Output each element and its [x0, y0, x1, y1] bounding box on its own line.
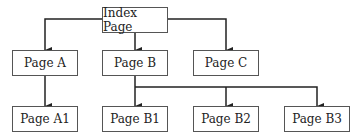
node-page-c: Page C — [193, 50, 259, 76]
node-label: Index Page — [103, 6, 167, 34]
node-page-a1: Page A1 — [12, 106, 78, 132]
node-page-b: Page B — [102, 50, 168, 76]
node-label: Page B3 — [292, 112, 342, 126]
node-page-b3: Page B3 — [284, 106, 350, 132]
node-label: Page B — [114, 56, 156, 70]
node-label: Page B1 — [110, 112, 160, 126]
node-label: Page A1 — [20, 112, 70, 126]
node-page-b1: Page B1 — [102, 106, 168, 132]
node-page-b2: Page B2 — [193, 106, 259, 132]
node-page-a: Page A — [12, 50, 78, 76]
node-label: Page A — [24, 56, 66, 70]
node-index-page: Index Page — [102, 7, 168, 33]
node-label: Page B2 — [201, 112, 251, 126]
node-label: Page C — [205, 56, 247, 70]
